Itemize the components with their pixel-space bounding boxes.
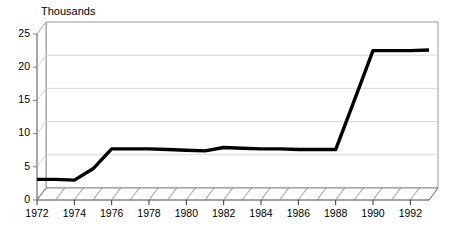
y-axis-ticks: 0510152025 <box>18 27 37 205</box>
x-tick-label: 1976 <box>100 207 124 219</box>
plot-back-wall <box>37 22 438 200</box>
x-tick-label: 1984 <box>249 207 273 219</box>
x-tick-label: 1988 <box>324 207 348 219</box>
x-axis-ticks: 1972197419761978198019821984198619881990… <box>25 200 422 219</box>
x-tick-label: 1982 <box>212 207 236 219</box>
y-tick-label: 25 <box>18 27 30 39</box>
x-tick-label: 1980 <box>175 207 199 219</box>
y-tick-label: 5 <box>24 160 30 172</box>
y-tick-label: 20 <box>18 60 30 72</box>
x-tick-label: 1978 <box>137 207 161 219</box>
x-tick-label: 1974 <box>63 207 87 219</box>
x-tick-label: 1986 <box>287 207 311 219</box>
x-tick-label: 1992 <box>399 207 423 219</box>
floor-ribbon <box>37 188 438 200</box>
back-wall-panel <box>46 22 438 188</box>
line-chart: 0510152025197219741976197819801982198419… <box>0 0 455 245</box>
x-tick-label: 1990 <box>361 207 385 219</box>
chart-title: Thousands <box>41 5 96 17</box>
y-tick-label: 0 <box>24 193 30 205</box>
x-tick-label: 1972 <box>25 207 49 219</box>
y-tick-label: 15 <box>18 93 30 105</box>
y-tick-label: 10 <box>18 126 30 138</box>
chart-container: 0510152025197219741976197819801982198419… <box>0 0 455 245</box>
left-side-panel <box>37 22 46 200</box>
